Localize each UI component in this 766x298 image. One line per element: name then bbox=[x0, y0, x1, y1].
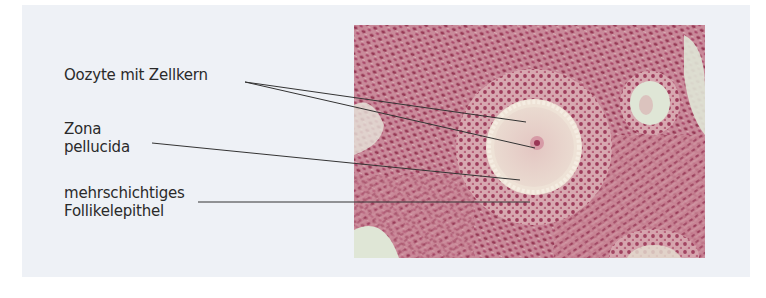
label-oocyte: Oozyte mit Zellkern bbox=[64, 66, 208, 84]
label-zona-line-2: pellucida bbox=[64, 138, 130, 156]
label-follicle-line-2: Follikelepithel bbox=[64, 202, 185, 220]
micrograph-image bbox=[354, 25, 705, 258]
label-follicle-epithelium: mehrschichtiges Follikelepithel bbox=[64, 184, 185, 220]
label-oocyte-line-1: Oozyte mit Zellkern bbox=[64, 66, 208, 84]
label-zona-line-1: Zona bbox=[64, 120, 130, 138]
label-follicle-line-1: mehrschichtiges bbox=[64, 184, 185, 202]
label-zona-pellucida: Zona pellucida bbox=[64, 120, 130, 156]
